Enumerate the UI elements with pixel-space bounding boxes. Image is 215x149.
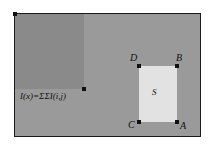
corner-c-label: C	[128, 120, 135, 130]
corner-c-marker	[137, 120, 141, 124]
region-s-label: S	[152, 88, 157, 97]
corner-b-label: B	[176, 53, 182, 63]
corner-d-marker	[137, 64, 141, 68]
point-x-marker	[82, 87, 86, 91]
corner-a-marker	[175, 120, 179, 124]
corner-a-label: A	[180, 121, 186, 131]
integral-formula-label: I(x)=ΣΣI(i,j)	[20, 92, 66, 101]
corner-d-label: D	[130, 53, 137, 63]
origin-point-marker	[13, 12, 17, 16]
integral-image-diagram: I(x)=ΣΣI(i,j) S D B C A	[0, 0, 215, 149]
rectangle-s	[139, 66, 177, 122]
corner-b-marker	[175, 64, 179, 68]
integral-sum-region	[15, 14, 84, 89]
